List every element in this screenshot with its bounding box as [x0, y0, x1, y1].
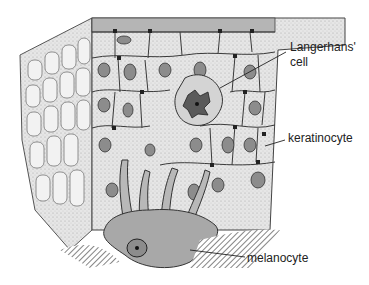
melanocyte-label: melanocyte — [247, 251, 308, 265]
langerhans-label-line1: Langerhans' — [290, 40, 356, 54]
langerhans-label-line2: cell — [290, 55, 308, 69]
keratinocyte-label: keratinocyte — [288, 131, 353, 145]
side-face — [20, 18, 92, 250]
langerhans-cell — [175, 75, 223, 126]
